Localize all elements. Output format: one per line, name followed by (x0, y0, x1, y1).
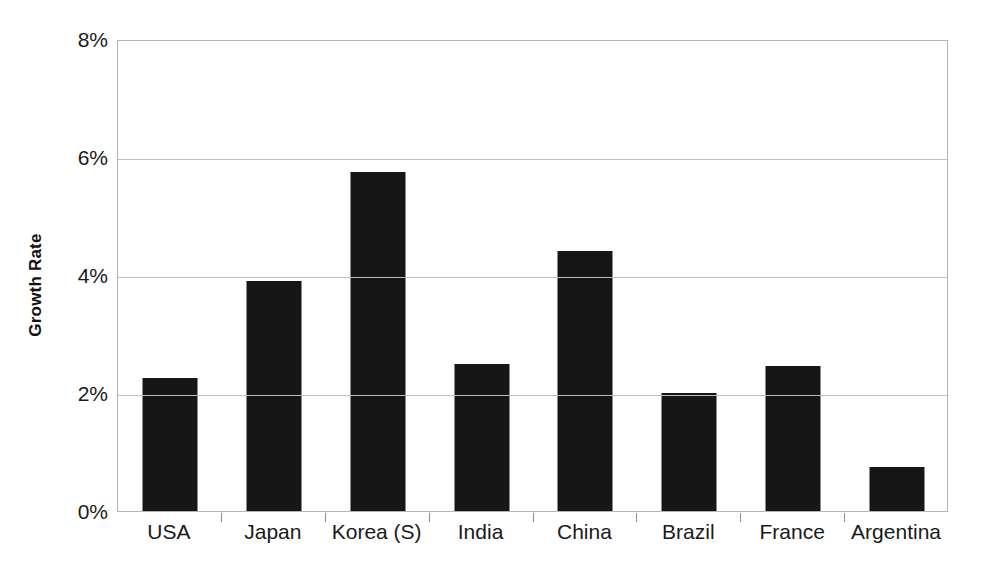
y-axis-tick-label: 2% (54, 382, 108, 406)
x-axis-tick-mark (221, 513, 222, 522)
x-axis-category-label: Korea (S) (325, 520, 429, 544)
x-axis-tick-mark (325, 513, 326, 522)
bar[interactable] (870, 467, 925, 511)
gridline (118, 395, 947, 396)
x-axis-tick-mark (844, 513, 845, 522)
bar-slot (741, 41, 845, 511)
x-axis-category-label: India (429, 520, 533, 544)
y-axis-tick-labels: 0%2%4%6%8% (50, 0, 108, 569)
bar-slot (118, 41, 222, 511)
y-axis-tick-label: 8% (54, 28, 108, 52)
x-axis-tick-mark (636, 513, 637, 522)
bar[interactable] (350, 172, 405, 511)
gridline (118, 277, 947, 278)
y-axis-title-label: Growth Rate (26, 233, 46, 336)
bar-slot (326, 41, 430, 511)
x-axis-category-label: Japan (221, 520, 325, 544)
bar-slot (222, 41, 326, 511)
x-axis-category-label: Brazil (636, 520, 740, 544)
bar-slot (637, 41, 741, 511)
bar-slot (845, 41, 949, 511)
x-axis-category-label: France (740, 520, 844, 544)
bar[interactable] (142, 378, 197, 511)
x-axis-category-label: China (533, 520, 637, 544)
gridline (118, 159, 947, 160)
x-axis-category-label: Argentina (844, 520, 948, 544)
x-axis-category-label: USA (117, 520, 221, 544)
plot-area (117, 40, 948, 512)
y-axis-tick-label: 0% (54, 500, 108, 524)
x-axis-tick-mark (429, 513, 430, 522)
x-axis-tick-mark (533, 513, 534, 522)
x-axis-category-labels: USAJapanKorea (S)IndiaChinaBrazilFranceA… (117, 520, 948, 560)
bar[interactable] (662, 393, 717, 511)
bar[interactable] (454, 364, 509, 512)
bar[interactable] (766, 366, 821, 511)
bars-layer (118, 41, 947, 511)
bar-slot (534, 41, 638, 511)
y-axis-tick-label: 4% (54, 264, 108, 288)
bar-chart: Growth Rate 0%2%4%6%8% USAJapanKorea (S)… (0, 0, 993, 569)
bar-slot (430, 41, 534, 511)
bar[interactable] (558, 251, 613, 511)
x-axis-tick-mark (740, 513, 741, 522)
y-axis-tick-label: 6% (54, 146, 108, 170)
